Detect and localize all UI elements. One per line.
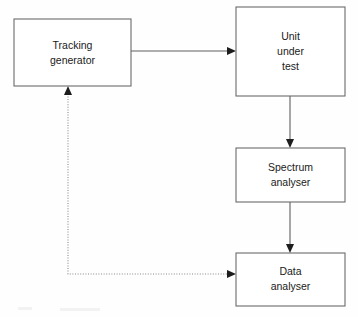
edge-tracking-to-unit: [131, 47, 236, 55]
node-label-spectrum-analyser-line-2: analyser: [271, 176, 311, 188]
edge-unit-to-spectrum: [286, 96, 294, 148]
scan-artifact: [18, 307, 32, 310]
node-unit-under-test[interactable]: Unit under test: [236, 7, 345, 96]
node-tracking-generator[interactable]: Tracking generator: [14, 19, 131, 86]
arrow-head-icon: [286, 244, 294, 253]
arrow-head-icon: [227, 47, 236, 55]
edge-spectrum-to-data: [286, 202, 294, 253]
edge-data-to-tracking-feedback: [64, 86, 236, 278]
node-label-data-analyser-line-2: analyser: [271, 280, 311, 292]
block-diagram-canvas: Tracking generator Unit under test Spect…: [0, 0, 358, 317]
node-label-unit-under-test-line-2: under: [277, 45, 304, 57]
node-label-data-analyser-line-1: Data: [279, 265, 301, 277]
node-data-analyser[interactable]: Data analyser: [236, 253, 345, 306]
node-label-tracking-generator-line-1: Tracking: [53, 39, 93, 51]
node-spectrum-analyser[interactable]: Spectrum analyser: [236, 148, 345, 202]
arrow-head-icon: [64, 86, 72, 95]
arrow-head-icon: [286, 139, 294, 148]
diagram-svg: Tracking generator Unit under test Spect…: [0, 0, 358, 317]
node-label-tracking-generator-line-2: generator: [50, 54, 95, 66]
scan-artifact: [60, 308, 100, 311]
node-box-tracking-generator[interactable]: [14, 19, 131, 86]
node-label-unit-under-test-line-3: test: [282, 60, 299, 72]
arrow-head-icon: [227, 270, 236, 278]
node-label-unit-under-test-line-1: Unit: [281, 30, 300, 42]
node-label-spectrum-analyser-line-1: Spectrum: [268, 161, 313, 173]
